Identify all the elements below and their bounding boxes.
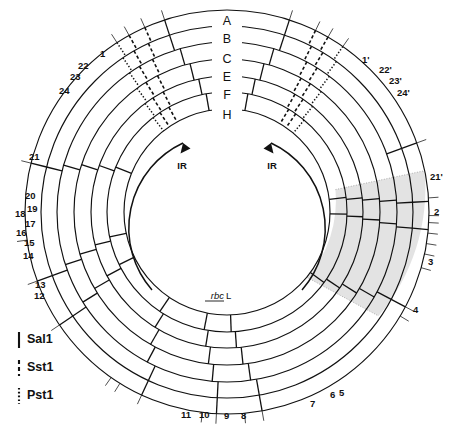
site-sal1-B [47, 167, 63, 171]
site-pst1-C [319, 76, 329, 90]
site-sst1-C [152, 59, 159, 74]
position-label: 22' [379, 64, 392, 75]
position-label: 17 [25, 218, 36, 229]
site-sal1-A [413, 201, 429, 202]
position-leader [421, 268, 431, 271]
site-sal1-F [107, 268, 121, 276]
ir-arrowhead-right [264, 143, 274, 154]
site-sal1-H [245, 94, 248, 111]
position-leader [141, 18, 145, 27]
site-sal1-F [95, 241, 111, 245]
site-sal1-H [231, 315, 232, 332]
site-sst1-H [169, 107, 177, 122]
position-leader [112, 34, 117, 42]
site-sal1-A [165, 20, 170, 35]
site-sal1-H [204, 313, 207, 330]
ring-label-E: E [223, 70, 231, 84]
site-sst1-F [163, 92, 171, 106]
position-leader [428, 233, 438, 234]
ir-label-right: IR [267, 160, 277, 171]
position-label: 12 [34, 290, 45, 301]
site-sst1-F [287, 94, 295, 108]
position-leader [51, 325, 59, 331]
position-leader [161, 10, 164, 20]
position-label: 1' [362, 54, 370, 65]
site-pst1-H [293, 120, 304, 133]
site-sal1-C [269, 49, 274, 65]
rbcl-label: rbcL [211, 290, 232, 301]
site-sal1-F [199, 79, 202, 95]
site-sal1-H [110, 233, 127, 237]
site-pst1-C [129, 73, 139, 87]
site-pst1-A [334, 47, 343, 60]
rbcl-roman-part: L [226, 290, 231, 301]
site-sal1-B [257, 379, 260, 395]
position-label: 6 [330, 389, 335, 400]
site-pst1-B [123, 58, 132, 71]
site-sst1-E [293, 78, 301, 93]
site-sal1-E [80, 249, 96, 254]
position-label: 9 [224, 410, 229, 421]
position-label: 24' [397, 87, 410, 98]
position-label: 21 [29, 151, 40, 162]
site-sal1-C [64, 165, 80, 170]
site-sal1-B [217, 382, 218, 398]
site-sal1-E [95, 280, 110, 289]
site-sal1-F [252, 79, 255, 95]
site-sst1-A [145, 27, 152, 42]
position-leader [105, 377, 111, 385]
ir-arrowhead-left [181, 143, 191, 154]
position-label: 3 [428, 256, 433, 267]
site-sal1-H [206, 94, 209, 111]
position-label: 22 [78, 60, 89, 71]
gene-marker-rbcl: rbcL [197, 288, 245, 301]
site-sal1-C [65, 259, 81, 264]
position-leader [289, 10, 292, 20]
site-pst1-E [137, 88, 147, 102]
site-sal1-B [387, 148, 402, 153]
position-leader [216, 414, 217, 424]
site-sal1-E [208, 347, 210, 364]
position-leader [328, 28, 333, 37]
site-pst1-A [117, 43, 126, 56]
site-sal1-F [347, 216, 363, 217]
position-leader [429, 223, 439, 224]
site-sal1-B [52, 270, 67, 275]
site-sal1-F [206, 331, 209, 347]
position-leader [316, 21, 320, 30]
site-sal1-E [151, 330, 160, 345]
position-label: 15 [24, 237, 35, 248]
circular-restriction-map: A B C E F H IR IR rbcL 12223242120191817… [0, 0, 455, 437]
position-leader [429, 197, 439, 198]
site-sal1-C [248, 364, 250, 381]
site-sal1-F [99, 165, 114, 170]
position-leader [124, 27, 129, 36]
legend-label-sal1: Sal1 [27, 332, 53, 346]
ir-label-left: IR [177, 160, 187, 171]
position-leader [115, 383, 120, 391]
site-sal1-B [170, 35, 175, 50]
site-pst1-F [145, 103, 155, 116]
position-label: 13 [35, 279, 46, 290]
position-label: 14 [23, 250, 34, 261]
site-sal1-A [142, 381, 149, 396]
site-sal1-E [260, 64, 264, 81]
site-sal1-E [81, 165, 97, 170]
position-leader [417, 139, 426, 142]
inverted-repeat-arrows: IR IR [129, 143, 325, 290]
site-sst1-C [299, 62, 307, 77]
site-sst1-B [148, 43, 155, 58]
ring-label-C: C [222, 52, 231, 66]
site-sst1-B [134, 51, 142, 65]
site-pst1-E [311, 91, 321, 104]
legend-label-sst1: Sst1 [27, 360, 53, 374]
position-label: 19 [27, 203, 38, 214]
site-sst1-H [286, 114, 296, 128]
site-sal1-B [280, 35, 285, 50]
position-label: 18 [15, 208, 26, 219]
position-label: 24 [59, 85, 70, 96]
site-sst1-E [301, 84, 310, 98]
site-sal1-C [212, 364, 213, 381]
site-sst1-F [153, 98, 162, 111]
position-leader [427, 244, 437, 246]
